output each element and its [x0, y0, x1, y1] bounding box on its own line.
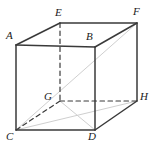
vertex-label-d: D [88, 131, 96, 142]
edge-gc [16, 101, 60, 130]
vertex-label-g: G [44, 91, 52, 102]
faint-diagonal-gd [60, 101, 95, 130]
faint-diagonal-ch [16, 101, 137, 130]
vertex-label-b: B [86, 31, 93, 42]
edge-bf [95, 23, 137, 47]
vertex-label-c: C [6, 131, 13, 142]
edge-dh [95, 101, 137, 130]
edge-ae [16, 23, 60, 45]
cube-figure: ABCDEFGH [0, 0, 153, 149]
edge-ab [16, 45, 95, 47]
vertex-label-a: A [6, 30, 13, 41]
vertex-label-h: H [140, 91, 148, 102]
vertex-label-e: E [55, 7, 62, 18]
cube-svg [0, 0, 153, 149]
vertex-label-f: F [133, 6, 140, 17]
